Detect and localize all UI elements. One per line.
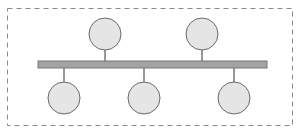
bus-bar bbox=[38, 61, 267, 68]
node-bottom-2 bbox=[128, 82, 160, 114]
node-bottom-1 bbox=[48, 82, 80, 114]
node-top-2 bbox=[186, 18, 218, 50]
node-bottom-3 bbox=[218, 82, 250, 114]
node-top-1 bbox=[89, 18, 121, 50]
bus-topology-diagram bbox=[0, 0, 300, 135]
